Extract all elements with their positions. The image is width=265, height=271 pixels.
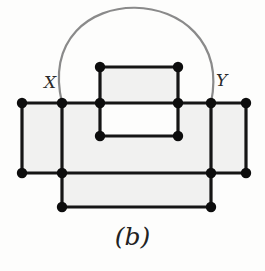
graph-vertex-v16 <box>206 202 216 212</box>
graph-vertex-v7 <box>95 62 105 72</box>
graph-vertex-v15 <box>57 202 67 212</box>
graph-face-inner-top <box>100 67 178 103</box>
graph-vertex-v14 <box>241 168 251 178</box>
graph-vertex-v4 <box>173 98 183 108</box>
graph-vertex-v8 <box>173 62 183 72</box>
graph-vertex-v13 <box>206 168 216 178</box>
figure-container: X Y (b) <box>0 0 265 271</box>
graph-face-right-square <box>211 103 246 173</box>
graph-vertex-v5 <box>206 98 216 108</box>
graph-vertex-v6 <box>241 98 251 108</box>
figure-caption: (b) <box>0 222 265 251</box>
graph-vertex-v12 <box>57 168 67 178</box>
vertex-label-y: Y <box>216 72 227 89</box>
graph-vertex-v9 <box>95 131 105 141</box>
graph-vertex-v3 <box>95 98 105 108</box>
graph-face-bottom-strip <box>62 173 211 207</box>
graph-vertex-v10 <box>173 131 183 141</box>
graph-face-center-upper <box>62 103 211 173</box>
vertex-label-x: X <box>44 74 56 91</box>
graph-vertex-v11 <box>17 168 27 178</box>
graph-vertex-v1 <box>17 98 27 108</box>
graph-vertex-v2 <box>57 98 67 108</box>
graph-face-left-square <box>22 103 62 173</box>
